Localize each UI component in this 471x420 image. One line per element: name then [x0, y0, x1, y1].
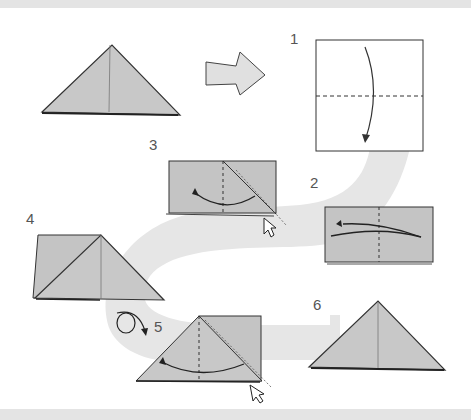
diagram-canvas: 1 2 3 4 5 6 — [0, 0, 471, 420]
step-label-4: 4 — [26, 211, 34, 226]
arrow-right-icon — [206, 52, 265, 95]
push-cursor-icon — [250, 385, 264, 403]
step-label-2: 2 — [310, 175, 318, 190]
finished-triangle-preview — [42, 45, 180, 115]
step-label-3: 3 — [149, 137, 157, 152]
step-label-1: 1 — [290, 31, 298, 46]
step-label-5: 5 — [154, 319, 162, 334]
diagram-svg — [0, 0, 471, 420]
step-1-square — [316, 40, 423, 151]
step-2-rectangle — [325, 207, 433, 264]
step-label-6: 6 — [313, 297, 321, 312]
